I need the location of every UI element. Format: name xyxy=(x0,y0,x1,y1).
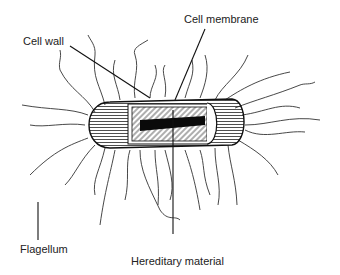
label-hereditary-material: Hereditary material xyxy=(131,255,224,267)
label-flagellum: Flagellum xyxy=(20,243,68,255)
cell-membrane-leader xyxy=(175,29,205,100)
cell-body xyxy=(89,99,244,148)
label-cell-wall: Cell wall xyxy=(23,35,64,47)
label-cell-membrane: Cell membrane xyxy=(184,13,259,25)
cell-wall-leader xyxy=(70,46,150,98)
